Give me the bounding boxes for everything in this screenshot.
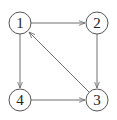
node-2: 2 — [86, 12, 108, 34]
node-3-label: 3 — [93, 92, 101, 108]
node-1: 1 — [9, 12, 31, 34]
node-1-label: 1 — [16, 15, 24, 31]
edge-3-to-1 — [29, 32, 89, 92]
node-4-label: 4 — [16, 92, 24, 108]
node-4: 4 — [9, 89, 31, 111]
directed-graph: 1 2 3 4 — [0, 0, 117, 120]
node-3: 3 — [86, 89, 108, 111]
node-2-label: 2 — [93, 15, 101, 31]
